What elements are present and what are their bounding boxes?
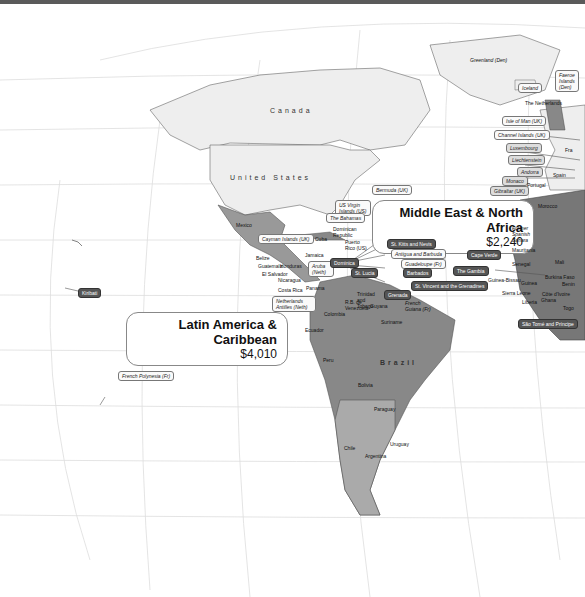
label-st-lucia: St. Lucia [351,268,378,278]
label-isle-of-man: Isle of Man (UK) [502,116,546,126]
label-honduras: Honduras [280,263,302,269]
label-guinea-bissau: Guinea-Bissau [488,277,521,283]
region-value: $4,010 [137,347,277,361]
label-cuba: Cuba [315,236,327,242]
label-peru: Peru [323,357,334,363]
label-costa-rica: Costa Rica [278,287,302,293]
label-morocco: Morocco [538,203,557,209]
label-togo: Togo [563,305,574,311]
label-liberia: Liberia [522,299,537,305]
label-grenada: Grenada [384,290,411,300]
label-jamaica: Jamaica [305,252,324,258]
label-dominica: Dominica [330,258,359,268]
country-label-usa: United States [230,174,311,181]
label-spain: Spain [553,172,566,178]
label-uruguay: Uruguay [390,441,409,447]
label-colombia: Colombia [324,311,345,317]
label-channel-islands: Channel Islands (UK) [494,130,550,140]
label-guatemala: Guatemala [258,263,282,269]
region-title: Middle East & North Africa [383,205,523,235]
label-st-kitts: St. Kitts and Nevis [387,239,436,249]
label-suriname: Suriname [381,319,402,325]
label-france: Fra [565,147,573,153]
label-sao-tome: São Tomé and Príncipe [518,319,578,329]
label-cayman: Cayman Islands (UK) [258,234,314,244]
label-french-polynesia: French Polynesia (Fr) [118,371,174,381]
label-french-guiana: French Guiana (Fr) [405,300,435,312]
label-mauritania: Mauritania [512,247,535,253]
label-antigua: Antigua and Barbuda [391,249,446,259]
label-portugal: Portugal [527,182,546,188]
label-monaco: Monaco [502,176,528,186]
label-benin: Benin [562,281,575,287]
label-guyana: Guyana [370,303,388,309]
label-neth-antilles: Netherlands Antilles (Neth) [272,296,316,312]
label-ecuador: Ecuador [305,327,324,333]
label-gibraltar: Gibraltar (UK) [490,186,529,196]
label-paraguay: Paraguay [374,406,395,412]
label-chile: Chile [344,445,355,451]
label-puerto-rico: Puerto Rico (US) [345,239,367,251]
country-label-canada: Canada [270,107,313,114]
label-dominican: Dominican Republic [333,226,363,238]
label-iceland: Iceland [518,83,542,93]
label-western-sahara: Former Spanish Sahara [512,225,534,243]
label-bolivia: Bolivia [358,382,373,388]
label-ghana: Ghana [541,297,556,303]
label-belize: Belize [256,255,270,261]
label-venezuela: R.B. de Venezuela [345,299,371,311]
label-liechtenstein: Liechtenstein [508,155,545,165]
label-senegal: Senegal [512,261,530,267]
label-cape-verde: Cape Verde [467,250,501,260]
label-luxembourg: Luxembourg [506,143,542,153]
label-faeroe: Faeroe Islands (Den) [555,70,579,92]
label-argentina: Argentina [365,453,386,459]
label-kiribati: Kiribati [78,288,101,298]
label-mexico: Mexico [236,222,252,228]
label-gambia: The Gambia [453,266,489,276]
region-title: Latin America & Caribbean [137,317,277,347]
label-bahamas: The Bahamas [326,213,365,223]
country-label-brazil: Brazil [380,359,417,366]
label-guinea: Guinea [521,280,537,286]
label-barbados: Barbados [403,268,432,278]
label-nicaragua: Nicaragua [278,277,301,283]
label-mali: Mali [555,259,564,265]
label-burkina: Burkina Faso [545,274,574,280]
region-callout-latin-america[interactable]: Latin America & Caribbean $4,010 [126,312,288,366]
label-st-vincent: St. Vincent and the Grenadines [411,281,488,291]
label-netherlands: The Netherlands [525,100,562,106]
label-sierra-leone: Sierra Leone [502,290,531,296]
label-bermuda: Bermuda (UK) [372,185,412,195]
label-panama: Panama [306,285,325,291]
label-greenland: Greenland (Den) [470,57,507,63]
